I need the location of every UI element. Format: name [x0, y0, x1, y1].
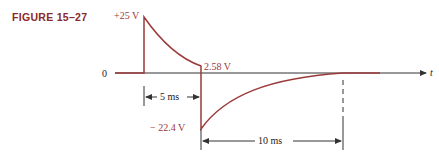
- peak-negative-label: − 22.4 V: [150, 122, 186, 133]
- recovery-time-label: 10 ms: [258, 135, 282, 146]
- pulse-width-label: 5 ms: [160, 91, 179, 102]
- zero-label: 0: [102, 68, 107, 79]
- time-label: t: [430, 67, 433, 78]
- end-of-pulse-label: 2.58 V: [204, 61, 232, 72]
- waveform-diagram: 0 t +25 V 2.58 V − 22.4 V 5 ms 10 ms: [0, 0, 439, 165]
- peak-positive-label: +25 V: [114, 10, 140, 21]
